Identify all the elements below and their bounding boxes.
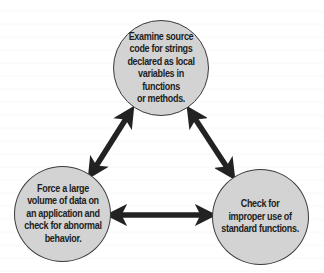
node-force-large-volume: Force a large volume of data on an appli… [14, 166, 111, 262]
node-examine-source-code: Examine source code for strings declared… [113, 20, 209, 116]
node-label: Force a large volume of data on an appli… [24, 183, 101, 246]
node-label: Examine source code for strings declared… [119, 31, 204, 106]
node-label: Check for improper use of standard funct… [222, 198, 300, 236]
cycle-diagram: Examine source code for strings declared… [0, 0, 324, 273]
node-check-improper-use: Check for improper use of standard funct… [212, 169, 309, 265]
double-arrow-top-left [93, 114, 129, 171]
double-arrow-top-right [192, 114, 230, 172]
